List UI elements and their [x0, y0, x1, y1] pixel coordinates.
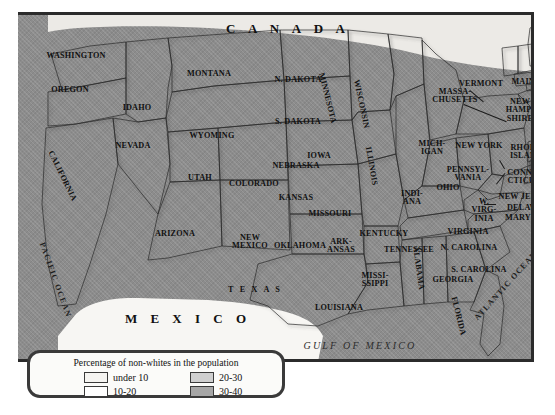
label-gulf-of-mexico: GULF OF MEXICO: [280, 341, 440, 351]
label-nebraska: NEBRASKA: [258, 162, 334, 170]
legend-item-1: 10-20: [84, 386, 136, 397]
legend-swatch-30-40: [190, 386, 214, 397]
label-georgia: GEORGIA: [422, 276, 484, 284]
legend-box: Percentage of non-whites in the populati…: [27, 350, 285, 398]
label-montana: MONTANA: [174, 70, 244, 78]
legend-swatch-10-20: [84, 386, 108, 397]
label-indiana: INDI- ANA: [390, 190, 434, 207]
frame-right: [531, 12, 534, 362]
label-pennsylvania: PENNSYL- VANIA: [435, 166, 501, 183]
legend-item-0: under 10: [84, 372, 148, 383]
label-mexico: M E X I C O: [98, 312, 278, 325]
label-arizona: ARIZONA: [142, 230, 208, 238]
legend-label-10-20: 10-20: [113, 386, 136, 397]
label-canada: C A N A D A: [188, 22, 388, 35]
label-mississippi: MISSI- SSIPPI: [350, 272, 400, 289]
label-wyoming: WYOMING: [174, 132, 250, 140]
map-figure: C A N A D A M E X I C O PACIFIC OCEAN AT…: [0, 0, 555, 415]
label-iowa: IOWA: [297, 152, 341, 160]
legend-item-3: 30-40: [190, 386, 242, 397]
leader-delaware: [484, 204, 496, 205]
label-rhode-island: RHODE ISLAND: [499, 144, 534, 161]
label-ohio: OHIO: [426, 184, 470, 192]
state-arizona: [148, 180, 222, 260]
label-nevada: NEVADA: [104, 142, 162, 150]
legend-swatch-20-30: [190, 372, 214, 383]
label-idaho: IDAHO: [113, 104, 161, 112]
label-washington: WASHINGTON: [34, 52, 118, 60]
label-colorado: COLORADO: [216, 180, 292, 188]
label-s-dakota: S. DAKOTA: [261, 118, 335, 126]
label-louisiana: LOUISIANA: [302, 304, 376, 312]
label-maryland: MARYLAND: [494, 214, 534, 222]
legend-title: Percentage of non-whites in the populati…: [30, 357, 282, 368]
label-texas: T E X A S: [210, 286, 300, 294]
label-delaware: DELAWARE: [496, 204, 534, 212]
legend-label-20-30: 20-30: [219, 372, 242, 383]
label-oregon: OREGON: [38, 86, 102, 94]
label-n-carolina: N. CAROLINA: [428, 244, 510, 252]
label-kansas: KANSAS: [264, 194, 328, 202]
frame-top: [18, 12, 534, 15]
label-s-carolina: S. CAROLINA: [438, 266, 520, 274]
state-kansas: [288, 164, 362, 214]
legend-label-under-10: under 10: [113, 372, 148, 383]
state-nevada: [113, 118, 170, 214]
legend-swatch-under-10: [84, 372, 108, 383]
state-washington: [51, 42, 126, 90]
label-maine: MAINE: [500, 78, 534, 86]
label-virginia: VIRGINIA: [432, 228, 504, 236]
legend-item-2: 20-30: [190, 372, 242, 383]
legend-label-30-40: 30-40: [219, 386, 242, 397]
label-arkansas: ARK- ANSAS: [318, 238, 364, 255]
label-utah: UTAH: [180, 174, 220, 182]
label-missouri: MISSOURI: [296, 210, 364, 218]
map-plate: C A N A D A M E X I C O PACIFIC OCEAN AT…: [18, 14, 534, 362]
label-new-jersey: NEW JERSEY: [488, 193, 534, 201]
